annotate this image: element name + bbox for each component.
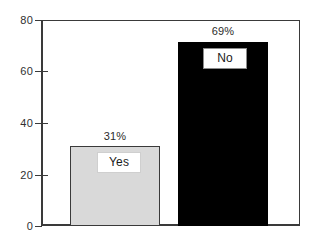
y-axis-tick-mark-80	[35, 20, 42, 21]
y-axis-tick-label-0: 0	[0, 221, 33, 232]
bar-value-label-no: 69%	[178, 26, 268, 37]
y-axis-tick-mark-0	[35, 226, 42, 227]
y-axis-tick-label-60: 60	[0, 66, 33, 77]
y-axis-tick-mark-40	[35, 123, 42, 124]
y-axis-tick-mark-inner-40	[42, 123, 48, 124]
y-axis-tick-mark-inner-60	[42, 71, 48, 72]
y-axis-tick-mark-60	[35, 71, 42, 72]
y-axis-tick-mark-inner-20	[42, 175, 48, 176]
y-axis-tick-label-20: 20	[0, 170, 33, 181]
y-axis-tick-label-40: 40	[0, 118, 33, 129]
bar-category-label-yes: Yes	[97, 152, 141, 173]
bar-category-label-no: No	[203, 48, 247, 69]
y-axis-tick-mark-20	[35, 175, 42, 176]
bar-no[interactable]	[178, 42, 268, 226]
bar-chart: 80 60 40 20 0 31% Yes 69% No	[0, 0, 314, 241]
y-axis-tick-label-80: 80	[0, 15, 33, 26]
bar-value-label-yes: 31%	[70, 131, 160, 142]
